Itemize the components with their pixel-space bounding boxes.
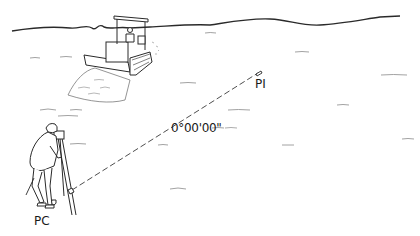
bulldozer — [68, 16, 159, 102]
angle-label: 0°00'00" — [171, 122, 222, 134]
pi-marker — [256, 71, 262, 76]
pc-label: PC — [34, 215, 50, 227]
survey-illustration — [0, 0, 420, 236]
horizon-line — [12, 16, 400, 31]
pi-label: PI — [255, 78, 266, 90]
